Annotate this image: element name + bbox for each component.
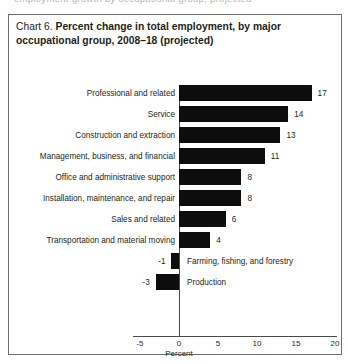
bar-category-label: Construction and extraction (75, 131, 175, 141)
x-axis-line (133, 336, 337, 337)
bar (171, 253, 179, 269)
bar-category-label: Production (187, 278, 226, 288)
bar (179, 190, 241, 206)
bar-value-label: 14 (294, 110, 303, 120)
bar (179, 106, 288, 122)
page-top-bleed: employment growth by occupational group,… (0, 0, 348, 13)
bleed-text: employment growth by occupational group,… (14, 0, 252, 4)
bar-category-label: Office and administrative support (55, 173, 175, 183)
bar-value-label: 8 (247, 194, 252, 204)
x-axis-tick-label: 5 (216, 339, 220, 348)
bar-value-label: 4 (216, 236, 221, 246)
bar-category-label: Installation, maintenance, and repair (43, 194, 175, 204)
bar (179, 211, 226, 227)
bar (179, 85, 312, 101)
x-axis-tick-label: 20 (331, 339, 340, 348)
bar-category-label: Professional and related (87, 89, 175, 99)
x-axis-tick-label: 10 (253, 339, 262, 348)
chart-plot-area: Percent Professional and related17Servic… (9, 15, 343, 356)
x-axis-tick-label: 0 (177, 339, 181, 348)
bar-value-label: 11 (271, 152, 280, 162)
bar-value-label: -1 (158, 257, 165, 267)
bar (179, 169, 241, 185)
x-axis-tick-label: -5 (136, 339, 143, 348)
bar-category-label: Management, business, and financial (40, 152, 175, 162)
x-axis-title: Percent (165, 349, 193, 358)
bar-value-label: 6 (232, 215, 237, 225)
x-axis-tick-label: 15 (292, 339, 301, 348)
bar-value-label: 17 (318, 89, 327, 99)
bar (179, 127, 280, 143)
bar (179, 232, 210, 248)
bar-value-label: 13 (286, 131, 295, 141)
bar-category-label: Service (148, 110, 175, 120)
bar-value-label: 8 (247, 173, 252, 183)
bar (156, 274, 179, 290)
bar-category-label: Transportation and material moving (47, 236, 176, 246)
bar-category-label: Farming, fishing, and forestry (187, 257, 293, 267)
chart-figure: Chart 6. Percent change in total employm… (8, 14, 342, 355)
bar (179, 148, 265, 164)
bar-value-label: -3 (143, 278, 150, 288)
bar-category-label: Sales and related (111, 215, 175, 225)
